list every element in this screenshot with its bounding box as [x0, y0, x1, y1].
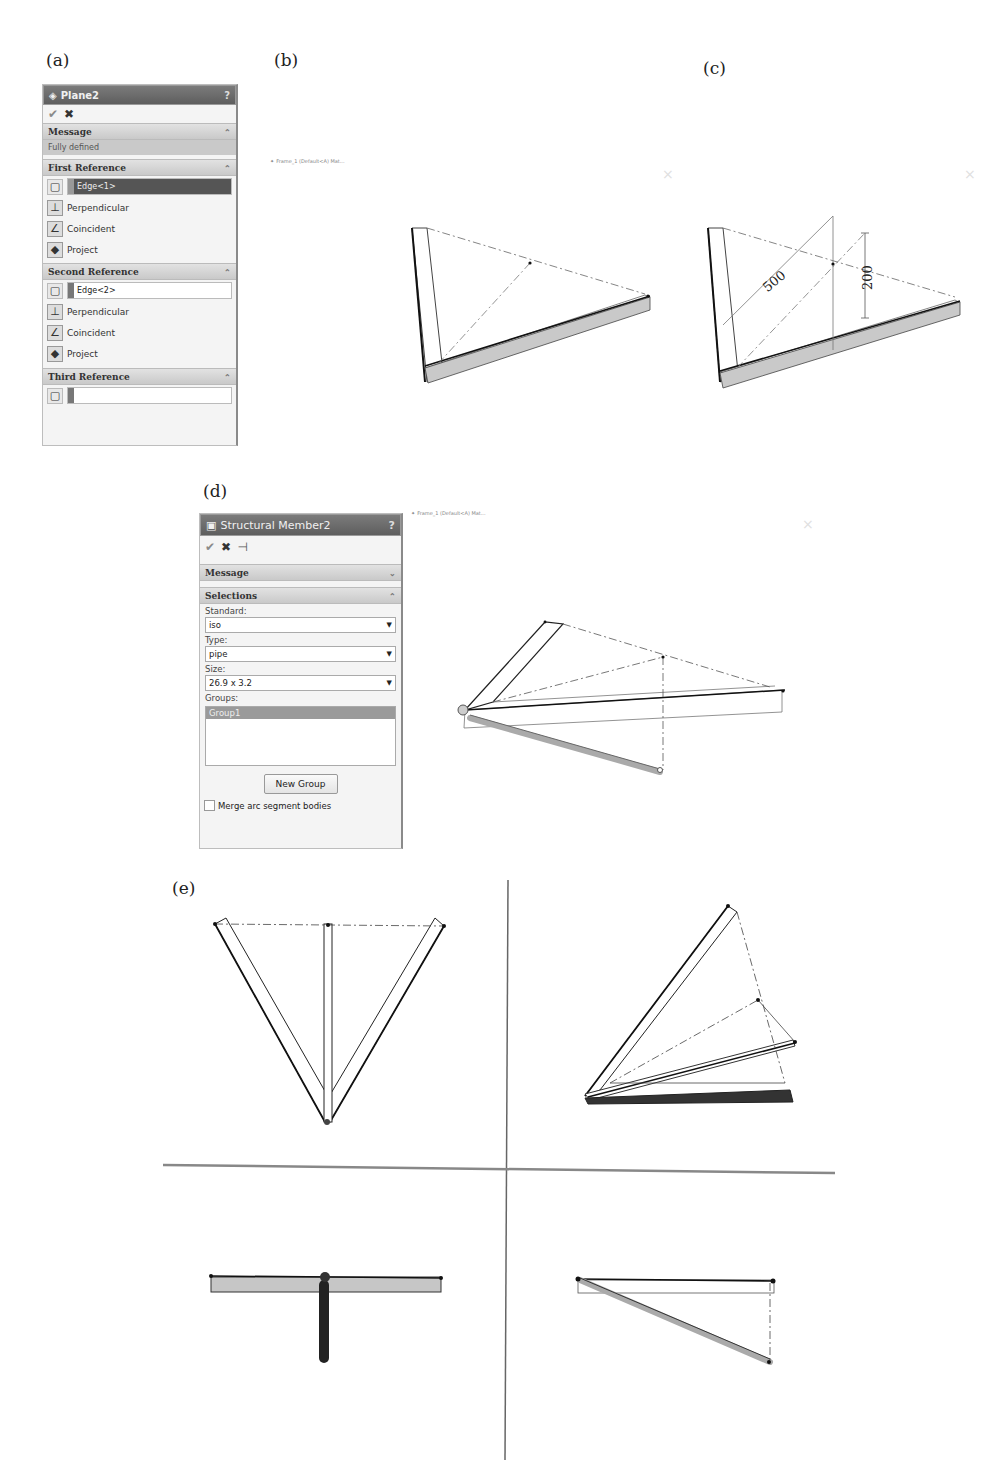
view-e-orthographic — [0, 0, 1003, 1480]
